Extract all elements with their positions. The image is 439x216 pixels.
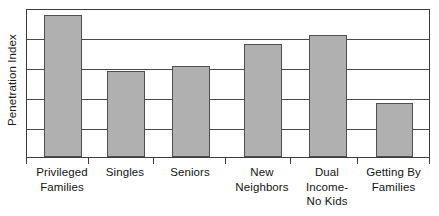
category-label-5: Getting ByFamilies (351, 165, 437, 194)
x-tick-3 (225, 158, 226, 164)
category-label-line: Families (351, 180, 437, 195)
x-tick-6 (429, 158, 430, 164)
bar-0 (44, 15, 82, 157)
bar-3 (244, 44, 282, 157)
bar-2 (172, 66, 210, 157)
bars-group (27, 10, 429, 157)
penetration-index-bar-chart: Penetration Index PrivilegedFamiliesSing… (0, 0, 439, 216)
x-tick-2 (153, 158, 154, 164)
bar-5 (376, 103, 413, 157)
x-tick-5 (357, 158, 358, 164)
category-label-line: No Kids (284, 194, 370, 209)
category-label-line: Families (19, 180, 105, 195)
category-label-line: Getting By (351, 165, 437, 180)
y-axis-title-text: Penetration Index (6, 34, 18, 126)
x-tick-4 (290, 158, 291, 164)
x-axis-ticks (26, 158, 430, 165)
x-tick-1 (88, 158, 89, 164)
x-tick-0 (26, 158, 27, 164)
bar-4 (309, 35, 347, 157)
plot-area (26, 9, 430, 158)
x-axis-category-labels: PrivilegedFamiliesSinglesSeniorsNewNeigh… (26, 165, 430, 215)
y-axis-title: Penetration Index (0, 0, 24, 160)
bar-1 (107, 71, 145, 157)
